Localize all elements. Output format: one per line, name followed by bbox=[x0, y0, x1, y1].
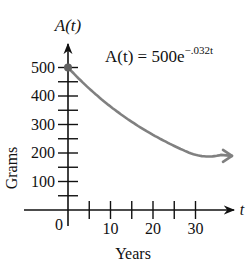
y-tick-label: 300 bbox=[31, 116, 55, 133]
x-axis-tick-labels: 102030 bbox=[103, 220, 204, 237]
x-tick-label: 30 bbox=[188, 220, 204, 237]
x-tick-label: 20 bbox=[145, 220, 161, 237]
origin-label: 0 bbox=[55, 216, 63, 233]
x-axis: 102030 0 t Years bbox=[24, 201, 245, 262]
y-tick-label: 400 bbox=[31, 87, 55, 104]
y-axis-tick-labels: 100200300400500 bbox=[31, 59, 55, 190]
y-axis-symbol: A(t) bbox=[54, 16, 82, 35]
x-axis-symbol: t bbox=[240, 201, 245, 218]
y-tick-label: 100 bbox=[31, 173, 55, 190]
x-axis-label: Years bbox=[115, 245, 151, 262]
initial-value-point bbox=[64, 64, 72, 72]
y-tick-label: 500 bbox=[31, 59, 55, 76]
y-tick-label: 200 bbox=[31, 144, 55, 161]
x-tick-label: 10 bbox=[103, 220, 119, 237]
formula-exponent: −.032t bbox=[184, 44, 213, 56]
y-axis-label: Grams bbox=[3, 147, 20, 190]
formula-lhs: A(t) = 500e bbox=[105, 47, 184, 66]
formula-label: A(t) = 500e−.032t bbox=[105, 44, 213, 66]
decay-chart: 100200300400500 A(t) Grams 102030 0 t Ye… bbox=[0, 0, 248, 272]
y-axis: 100200300400500 A(t) Grams bbox=[3, 16, 82, 226]
decay-curve bbox=[68, 68, 232, 157]
